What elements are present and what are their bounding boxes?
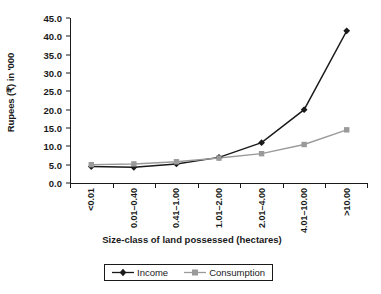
x-axis-tick-label-text: 4.01–10.00	[299, 188, 309, 233]
legend-label-consumption: Consumption	[209, 267, 265, 278]
x-axis-tick-label-text: >10.00	[342, 188, 352, 216]
x-axis-tick-label-text: <0.01	[86, 188, 96, 211]
y-axis-tick-label: 5.0	[49, 159, 62, 170]
series-plot	[70, 18, 368, 184]
chart-legend: Income Consumption	[104, 264, 273, 281]
y-axis-tick-label: 10.0	[44, 141, 63, 152]
x-axis-tick-label-text: 1.01–2.00	[214, 188, 224, 228]
x-axis-tick-label: 2.01–4.00	[256, 188, 268, 232]
data-point-consumption	[301, 142, 306, 147]
x-axis-tick-label: 4.01–10.00	[298, 188, 310, 232]
x-axis-title: Size-class of land possessed (hectares)	[22, 234, 362, 245]
legend-label-income: Income	[137, 267, 168, 278]
x-axis-tick-label: 1.01–2.00	[213, 188, 225, 232]
y-axis-tick-label: 25.0	[44, 86, 63, 97]
legend-entry-consumption: Consumption	[184, 267, 265, 278]
x-axis-tick-label: <0.01	[85, 188, 97, 232]
data-point-consumption	[174, 159, 179, 164]
y-axis-tick-label: 40.0	[44, 31, 63, 42]
x-axis-tick-label: 0.41–1.00	[170, 188, 182, 232]
x-axis-tick-label-text: 2.01–4.00	[257, 188, 267, 228]
x-axis-tick-label-text: 0.01–0.40	[129, 188, 139, 228]
y-axis-title: Rupees (₹) in '000	[0, 0, 22, 185]
y-axis-tick-labels: 45.040.035.030.025.020.015.010.05.00.0	[22, 18, 66, 184]
y-axis-tick-label: 45.0	[44, 13, 63, 24]
x-axis-tick-label-text: 0.41–1.00	[171, 188, 181, 228]
y-axis-tick-label: 35.0	[44, 49, 63, 60]
series-line-income	[91, 31, 346, 167]
y-axis-title-label: Rupees (₹) in '000	[6, 53, 17, 132]
x-axis-tick-label: >10.00	[341, 188, 353, 232]
income-series-icon	[112, 268, 134, 277]
data-point-consumption	[216, 155, 221, 160]
data-point-consumption	[131, 161, 136, 166]
y-axis-tick-label: 30.0	[44, 68, 63, 79]
legend-entry-income: Income	[112, 267, 168, 278]
data-point-income	[343, 27, 350, 34]
line-chart: Rupees (₹) in '000 45.040.035.030.025.02…	[0, 0, 381, 294]
y-axis-tick-label: 20.0	[44, 104, 63, 115]
x-axis-tick-label: 0.01–0.40	[128, 188, 140, 232]
data-point-consumption	[89, 162, 94, 167]
y-axis-tick-label: 0.0	[49, 178, 62, 189]
data-point-consumption	[344, 127, 349, 132]
consumption-series-icon	[184, 268, 206, 277]
data-point-consumption	[259, 151, 264, 156]
y-axis-tick-label: 15.0	[44, 123, 63, 134]
x-axis-tick-labels: <0.010.01–0.400.41–1.001.01–2.002.01–4.0…	[70, 188, 368, 232]
plot-area	[70, 18, 368, 184]
